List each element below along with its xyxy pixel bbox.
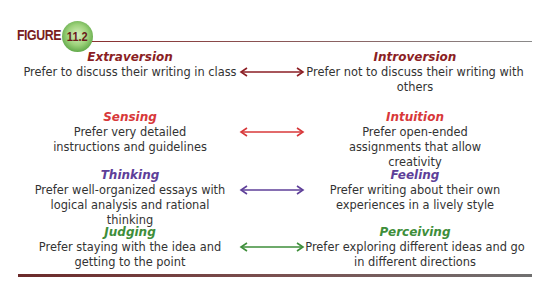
thinking-term: Thinking	[20, 168, 240, 183]
double-arrow-icon	[239, 67, 305, 77]
sensing-term: Sensing	[20, 110, 240, 125]
bottom-rule-divider	[18, 274, 532, 277]
judging-term: Judging	[20, 225, 240, 240]
intuition-description: Prefer open-ended assignments that allow…	[300, 125, 530, 170]
double-arrow-icon	[239, 242, 305, 252]
figure-number: 11.2	[67, 29, 88, 44]
thinking-cell: Thinking Prefer well-organized essays wi…	[20, 168, 240, 228]
introversion-description: Prefer not to discuss their writing with…	[300, 65, 530, 95]
figure-label: FIGURE	[17, 26, 61, 43]
feeling-description: Prefer writing about their own experienc…	[300, 183, 530, 213]
introversion-term: Introversion	[300, 50, 530, 65]
double-arrow-icon	[239, 127, 305, 137]
intuition-cell: Intuition Prefer open-ended assignments …	[300, 110, 530, 170]
extraversion-term: Extraversion	[20, 50, 240, 65]
extraversion-cell: Extraversion Prefer to discuss their wri…	[20, 50, 240, 80]
thinking-description: Prefer well-organized essays with logica…	[20, 183, 240, 228]
feeling-cell: Feeling Prefer writing about their own e…	[300, 168, 530, 213]
perceiving-term: Perceiving	[300, 225, 530, 240]
feeling-term: Feeling	[300, 168, 530, 183]
sensing-description: Prefer very detailed instructions and gu…	[20, 125, 240, 155]
figure-number-badge: 11.2	[62, 21, 93, 52]
introversion-cell: Introversion Prefer not to discuss their…	[300, 50, 530, 95]
judging-cell: Judging Prefer staying with the idea and…	[20, 225, 240, 270]
sensing-cell: Sensing Prefer very detailed instruction…	[20, 110, 240, 155]
extraversion-description: Prefer to discuss their writing in class	[20, 65, 240, 80]
intuition-term: Intuition	[300, 110, 530, 125]
judging-description: Prefer staying with the idea and getting…	[20, 240, 240, 270]
perceiving-cell: Perceiving Prefer exploring different id…	[300, 225, 530, 270]
perceiving-description: Prefer exploring different ideas and go …	[300, 240, 530, 270]
double-arrow-icon	[239, 185, 305, 195]
top-rule-divider	[92, 41, 532, 42]
